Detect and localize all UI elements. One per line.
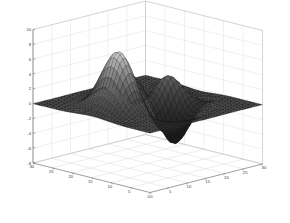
y-tick-label: 20 bbox=[224, 175, 229, 180]
x-tick-label: 5 bbox=[128, 189, 131, 194]
z-tick-label: 10 bbox=[26, 27, 31, 32]
z-axis-tick-labels: -8-6-4-20246810 bbox=[26, 27, 31, 166]
z-tick-label: 8 bbox=[29, 42, 32, 47]
z-tick-label: -4 bbox=[27, 131, 31, 136]
x-tick-label: 25 bbox=[49, 169, 54, 174]
z-tick-label: -2 bbox=[27, 116, 31, 121]
y-tick-label: 25 bbox=[243, 170, 248, 175]
z-tick-label: 0 bbox=[29, 101, 32, 106]
y-tick-label: 30 bbox=[262, 165, 267, 170]
x-tick-label: 30 bbox=[29, 164, 34, 169]
matlab-figure-window: -8-6-4-20246810 051015202530 05101520253… bbox=[0, 0, 290, 223]
surface-plot-axes[interactable]: -8-6-4-20246810 051015202530 05101520253… bbox=[0, 0, 290, 223]
z-tick-label: -6 bbox=[27, 146, 31, 151]
y-tick-label: 5 bbox=[169, 189, 172, 194]
x-tick-label: 10 bbox=[107, 184, 112, 189]
z-tick-label: 6 bbox=[29, 57, 32, 62]
z-tick-label: 2 bbox=[29, 86, 32, 91]
z-tick-label: 4 bbox=[29, 72, 32, 77]
x-tick-label: 20 bbox=[68, 174, 73, 179]
y-tick-label: 10 bbox=[187, 184, 192, 189]
y-tick-label: 15 bbox=[205, 179, 210, 184]
y-tick-label: 0 bbox=[150, 194, 153, 199]
x-tick-label: 15 bbox=[88, 179, 93, 184]
